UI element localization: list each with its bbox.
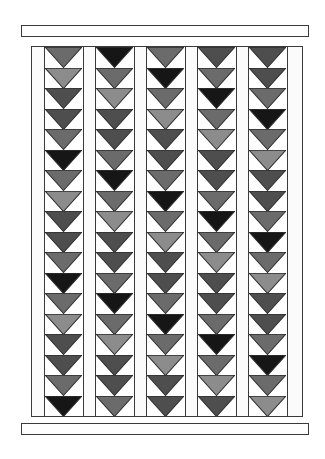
flying-geese-block [45,273,82,294]
flying-geese-block [147,334,184,355]
flying-geese-block [45,68,82,89]
flying-geese-block [198,252,235,273]
flying-geese-block [249,334,286,355]
flying-geese-block [198,232,235,253]
flying-geese-block [147,150,184,171]
flying-geese-block [249,252,286,273]
flying-geese-block [198,375,235,396]
flying-geese-block [147,273,184,294]
flying-geese-block [45,314,82,335]
flying-geese-block [45,355,82,376]
flying-geese-block [147,355,184,376]
flying-geese-block [249,47,286,68]
flying-geese-block [198,68,235,89]
flying-geese-block [249,170,286,191]
geese-column-3 [146,47,186,416]
flying-geese-block [96,232,133,253]
flying-geese-block [198,396,235,417]
flying-geese-block [198,88,235,109]
flying-geese-block [147,88,184,109]
top-border-strip [21,25,309,37]
flying-geese-block [249,88,286,109]
flying-geese-block [249,293,286,314]
flying-geese-block [45,252,82,273]
flying-geese-block [96,88,133,109]
flying-geese-block [96,293,133,314]
flying-geese-block [249,314,286,335]
flying-geese-block [96,314,133,335]
flying-geese-block [147,211,184,232]
flying-geese-block [96,170,133,191]
flying-geese-block [147,314,184,335]
flying-geese-block [249,129,286,150]
bottom-border-strip [21,423,309,435]
flying-geese-block [147,129,184,150]
flying-geese-block [147,396,184,417]
flying-geese-block [198,314,235,335]
flying-geese-block [96,211,133,232]
flying-geese-block [45,293,82,314]
geese-column-4 [197,47,237,416]
flying-geese-block [45,191,82,212]
flying-geese-block [96,47,133,68]
flying-geese-block [147,252,184,273]
flying-geese-block [198,191,235,212]
flying-geese-block [198,129,235,150]
flying-geese-block [249,375,286,396]
flying-geese-block [45,375,82,396]
flying-geese-block [198,109,235,130]
flying-geese-block [147,109,184,130]
flying-geese-block [45,47,82,68]
flying-geese-block [249,211,286,232]
flying-geese-block [96,129,133,150]
flying-geese-block [45,334,82,355]
flying-geese-block [198,293,235,314]
flying-geese-block [96,252,133,273]
flying-geese-block [198,150,235,171]
flying-geese-block [147,375,184,396]
flying-geese-block [45,211,82,232]
flying-geese-block [45,170,82,191]
flying-geese-block [96,191,133,212]
flying-geese-block [249,232,286,253]
flying-geese-block [198,47,235,68]
flying-geese-block [96,109,133,130]
flying-geese-block [147,170,184,191]
geese-column-2 [95,47,135,416]
flying-geese-block [198,170,235,191]
flying-geese-block [198,355,235,376]
flying-geese-block [249,150,286,171]
flying-geese-block [249,191,286,212]
flying-geese-block [198,334,235,355]
flying-geese-block [96,396,133,417]
flying-geese-block [147,47,184,68]
flying-geese-block [96,150,133,171]
flying-geese-block [147,191,184,212]
flying-geese-block [147,293,184,314]
geese-column-1 [44,47,84,416]
flying-geese-block [249,68,286,89]
flying-geese-block [45,109,82,130]
flying-geese-block [147,232,184,253]
flying-geese-block [249,355,286,376]
flying-geese-block [147,68,184,89]
flying-geese-block [96,68,133,89]
flying-geese-block [96,355,133,376]
flying-geese-block [96,273,133,294]
flying-geese-block [45,88,82,109]
flying-geese-block [45,232,82,253]
flying-geese-block [96,334,133,355]
flying-geese-block [45,150,82,171]
flying-geese-block [249,109,286,130]
flying-geese-block [198,211,235,232]
flying-geese-block [45,396,82,417]
flying-geese-block [249,273,286,294]
flying-geese-block [198,273,235,294]
flying-geese-block [45,129,82,150]
flying-geese-block [96,375,133,396]
geese-column-5 [248,47,288,416]
quilt-body [31,46,303,417]
flying-geese-block [249,396,286,417]
